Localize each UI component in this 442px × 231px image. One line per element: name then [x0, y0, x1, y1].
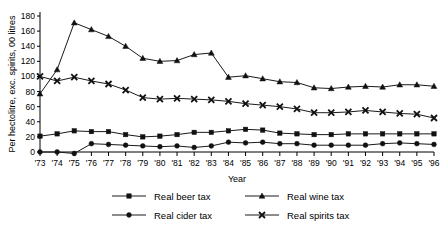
legend-label-real-spirits-tax: Real spirits tax: [287, 210, 350, 221]
data-point-real-beer-tax: [123, 132, 127, 136]
x-axis-title: Year: [228, 174, 246, 184]
data-point-real-cider-tax: [55, 150, 60, 155]
data-point-real-beer-tax: [346, 132, 350, 136]
x-tick-label: '85: [240, 158, 251, 168]
x-tick-label: '88: [291, 158, 302, 168]
data-point-real-cider-tax: [432, 142, 437, 147]
data-point-real-cider-tax: [277, 141, 282, 146]
x-tick-label: '96: [428, 158, 439, 168]
data-point-real-beer-tax: [243, 127, 247, 131]
x-tick-label: '91: [343, 158, 354, 168]
data-point-real-beer-tax: [432, 132, 436, 136]
data-point-real-spirits-tax: [123, 87, 129, 93]
data-point-real-cider-tax: [260, 140, 265, 145]
series-line-real-wine-tax: [40, 23, 434, 94]
data-point-real-cider-tax: [72, 151, 77, 156]
x-tick-label: '89: [309, 158, 320, 168]
legend-label-real-wine-tax: Real wine tax: [287, 191, 344, 202]
data-point-real-cider-tax: [89, 141, 94, 146]
data-point-real-beer-tax: [295, 132, 299, 136]
y-tick-label: 120: [21, 56, 35, 66]
data-point-real-beer-tax: [175, 132, 179, 136]
legend-label-real-cider-tax: Real cider tax: [154, 210, 212, 221]
data-point-real-beer-tax: [72, 129, 76, 133]
data-point-real-cider-tax: [38, 150, 43, 155]
x-tick-label: '76: [86, 158, 97, 168]
x-tick-label: '82: [189, 158, 200, 168]
x-tick-label: '95: [411, 158, 422, 168]
chart-figure: 020406080100120140160180'73'74'75'76'77'…: [0, 0, 442, 231]
data-point-real-cider-tax: [380, 141, 385, 146]
x-tick-label: '90: [326, 158, 337, 168]
data-point-real-beer-tax: [106, 129, 110, 133]
x-tick-label: '74: [52, 158, 63, 168]
data-point-real-cider-tax: [329, 143, 334, 148]
data-point-real-cider-tax: [192, 145, 197, 150]
data-point-real-beer-tax: [329, 132, 333, 136]
y-tick-label: 100: [21, 71, 35, 81]
data-point-real-beer-tax: [260, 128, 264, 132]
data-point-real-beer-tax: [278, 131, 282, 135]
x-tick-label: '87: [274, 158, 285, 168]
x-tick-label: '79: [137, 158, 148, 168]
data-point-real-wine-tax: [243, 73, 249, 78]
data-point-real-wine-tax: [140, 55, 146, 60]
x-tick-label: '84: [223, 158, 234, 168]
data-point-real-beer-tax: [363, 132, 367, 136]
y-tick-label: 0: [30, 147, 35, 157]
data-point-real-wine-tax: [54, 67, 60, 72]
data-point-real-cider-tax: [175, 144, 180, 149]
data-point-real-beer-tax: [398, 132, 402, 136]
data-point-real-cider-tax: [123, 143, 128, 148]
data-point-real-beer-tax: [141, 135, 145, 139]
data-point-real-cider-tax: [295, 141, 300, 146]
data-point-real-cider-tax: [346, 143, 351, 148]
data-point-real-cider-tax: [226, 140, 231, 145]
data-point-real-cider-tax: [243, 141, 248, 146]
data-point-real-beer-tax: [380, 132, 384, 136]
x-tick-label: '92: [360, 158, 371, 168]
y-tick-label: 80: [26, 87, 36, 97]
series-line-real-beer-tax: [40, 129, 434, 137]
x-tick-label: '77: [103, 158, 114, 168]
x-tick-label: '78: [120, 158, 131, 168]
x-tick-label: '86: [257, 158, 268, 168]
legend-label-real-beer-tax: Real beer tax: [154, 191, 211, 202]
data-point-real-beer-tax: [312, 132, 316, 136]
x-tick-label: '93: [377, 158, 388, 168]
data-point-real-cider-tax: [158, 144, 163, 149]
data-point-real-cider-tax: [209, 144, 214, 149]
data-point-real-cider-tax: [312, 143, 317, 148]
y-tick-label: 140: [21, 41, 35, 51]
data-point-real-cider-tax: [397, 141, 402, 146]
data-point-real-cider-tax: [140, 144, 145, 149]
data-point-real-beer-tax: [415, 132, 419, 136]
line-chart: 020406080100120140160180'73'74'75'76'77'…: [0, 0, 442, 231]
data-point-real-beer-tax: [226, 129, 230, 133]
data-point-real-beer-tax: [192, 130, 196, 134]
y-tick-label: 40: [26, 117, 36, 127]
y-tick-label: 160: [21, 26, 35, 36]
y-tick-label: 20: [26, 132, 36, 142]
data-point-real-wine-tax: [71, 20, 77, 25]
data-point-real-beer-tax: [158, 134, 162, 138]
series-line-real-spirits-tax: [40, 76, 434, 118]
y-tick-label: 60: [26, 102, 36, 112]
x-tick-label: '80: [154, 158, 165, 168]
x-tick-label: '75: [69, 158, 80, 168]
data-point-real-beer-tax: [38, 134, 42, 138]
data-point-real-cider-tax: [414, 141, 419, 146]
data-point-real-wine-tax: [208, 50, 214, 55]
data-point-real-cider-tax: [363, 143, 368, 148]
data-point-real-cider-tax: [106, 142, 111, 147]
x-tick-label: '94: [394, 158, 405, 168]
x-tick-label: '81: [172, 158, 183, 168]
legend-marker-square: [127, 194, 131, 198]
data-point-real-wine-tax: [123, 43, 129, 48]
y-tick-label: 180: [21, 11, 35, 21]
x-tick-label: '83: [206, 158, 217, 168]
legend-marker-circle: [127, 213, 132, 218]
x-tick-label: '73: [34, 158, 45, 168]
data-point-real-beer-tax: [89, 129, 93, 133]
data-point-real-beer-tax: [55, 132, 59, 136]
